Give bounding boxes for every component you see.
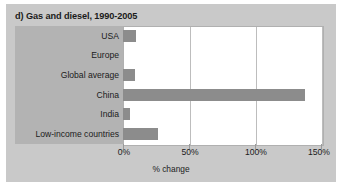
tick-label-150: 150%	[308, 147, 330, 157]
category-label: India	[100, 109, 119, 119]
category-label-box: China	[15, 85, 123, 105]
category-label-box: India	[15, 105, 123, 125]
x-axis-label: % change	[6, 164, 336, 174]
bar-global-average	[123, 69, 135, 81]
bar-row: China	[6, 85, 322, 105]
bar-row: USA	[6, 26, 322, 46]
gridline-150	[322, 27, 323, 145]
figure-panel: d) Gas and diesel, 1990-2005 USA Europe …	[6, 4, 336, 182]
bar-row: India	[6, 105, 322, 125]
tick-label-100: 100%	[245, 147, 267, 157]
tick-label-50: 50%	[181, 147, 198, 157]
category-label: Low-income countries	[35, 129, 119, 139]
category-label: Europe	[91, 50, 119, 60]
category-label-box: USA	[15, 26, 123, 46]
x-axis-tick-labels: 0% 50% 100% 150%	[6, 147, 336, 159]
bar-rows: USA Europe Global average China India	[6, 26, 322, 144]
bar-usa	[123, 30, 136, 42]
bar-row: Low-income countries	[6, 124, 322, 144]
category-label: Global average	[61, 70, 119, 80]
category-label-box: Low-income countries	[15, 124, 123, 144]
chart-title: d) Gas and diesel, 1990-2005	[15, 11, 137, 21]
category-label-box: Global average	[15, 65, 123, 85]
bar-low-income-countries	[123, 128, 158, 140]
bar-china	[123, 89, 305, 101]
category-label: USA	[101, 31, 119, 41]
category-label-box: Europe	[15, 46, 123, 66]
bar-row: Global average	[6, 65, 322, 85]
bar-india	[123, 108, 130, 120]
bar-row: Europe	[6, 46, 322, 66]
tick-label-0: 0%	[118, 147, 130, 157]
category-label: China	[97, 90, 119, 100]
